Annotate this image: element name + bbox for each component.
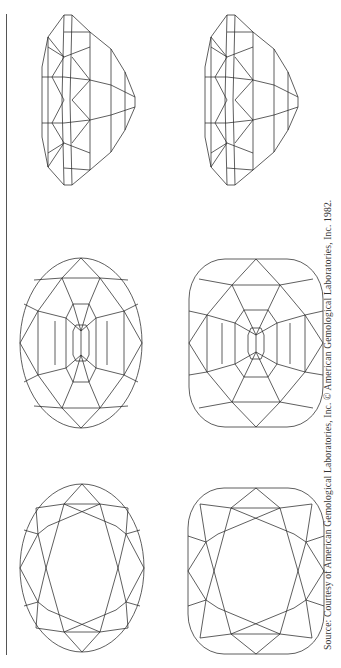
oval-pavilion-diagram — [18, 256, 144, 430]
oval-crown-diagram — [18, 482, 146, 654]
cushion-crown-diagram — [186, 486, 326, 656]
margin-rule — [6, 14, 7, 655]
oval-side-view-diagram — [40, 12, 144, 188]
cushion-pavilion-diagram — [187, 255, 325, 431]
cushion-side-view-diagram — [203, 12, 307, 188]
source-caption: Source: Courtesy of American Gemological… — [322, 200, 333, 650]
